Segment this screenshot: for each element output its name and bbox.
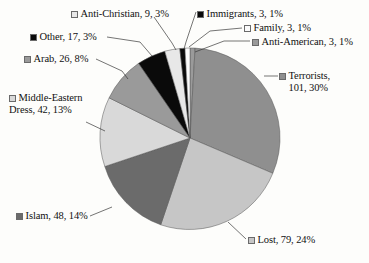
label-terrorists-comma: , xyxy=(328,70,331,81)
swatch-family-icon xyxy=(244,25,251,32)
leader-lost xyxy=(228,222,246,239)
label-terrorists-value: 101, 30% xyxy=(289,82,328,93)
pie-chart: Anti-Christian, 9, 3% Immigrants, 3, 1% … xyxy=(0,0,369,263)
label-terrorists-name: Terrorists xyxy=(289,70,328,81)
swatch-lost-icon xyxy=(248,237,255,244)
label-arab-text: Arab, 26, 8% xyxy=(34,53,89,64)
label-anti-american[interactable]: Anti-American, 3, 1% xyxy=(252,36,353,48)
leader-arab xyxy=(96,59,128,79)
label-middle-eastern-dress-text: Middle-Eastern Dress, 42, 13% xyxy=(9,92,82,115)
swatch-middle-eastern-dress-icon xyxy=(9,95,16,102)
swatch-immigrants-icon xyxy=(197,11,204,18)
label-immigrants-text: Immigrants, 3, 1% xyxy=(207,8,283,19)
leader-islam xyxy=(90,207,112,216)
label-immigrants[interactable]: Immigrants, 3, 1% xyxy=(197,8,283,20)
label-other[interactable]: Other, 17, 3% xyxy=(30,31,97,43)
label-other-text: Other, 17, 3% xyxy=(40,31,97,42)
label-lost-text: Lost, 79, 24% xyxy=(258,234,316,245)
leader-other xyxy=(107,37,152,56)
label-terrorists[interactable]: Terrorists, 101, 30% xyxy=(279,70,330,94)
label-islam-text: Islam, 48, 14% xyxy=(26,210,88,221)
label-anti-christian-text: Anti-Christian, 9, 3% xyxy=(81,8,169,19)
label-family[interactable]: Family, 3, 1% xyxy=(244,22,311,34)
pie-slices xyxy=(100,48,280,229)
swatch-anti-christian-icon xyxy=(71,11,78,18)
swatch-anti-american-icon xyxy=(252,39,259,46)
swatch-terrorists-icon xyxy=(279,73,286,80)
swatch-other-icon xyxy=(30,34,37,41)
label-islam[interactable]: Islam, 48, 14% xyxy=(16,210,88,222)
label-lost[interactable]: Lost, 79, 24% xyxy=(248,234,315,246)
swatch-arab-icon xyxy=(24,56,31,63)
label-anti-american-text: Anti-American, 3, 1% xyxy=(262,36,353,47)
label-family-text: Family, 3, 1% xyxy=(254,22,312,33)
leader-anti-christian xyxy=(154,17,176,50)
swatch-islam-icon xyxy=(16,213,23,220)
label-middle-eastern-dress[interactable]: Middle-Eastern Dress, 42, 13% xyxy=(9,92,85,116)
label-arab[interactable]: Arab, 26, 8% xyxy=(24,53,88,65)
label-anti-christian[interactable]: Anti-Christian, 9, 3% xyxy=(71,8,169,20)
